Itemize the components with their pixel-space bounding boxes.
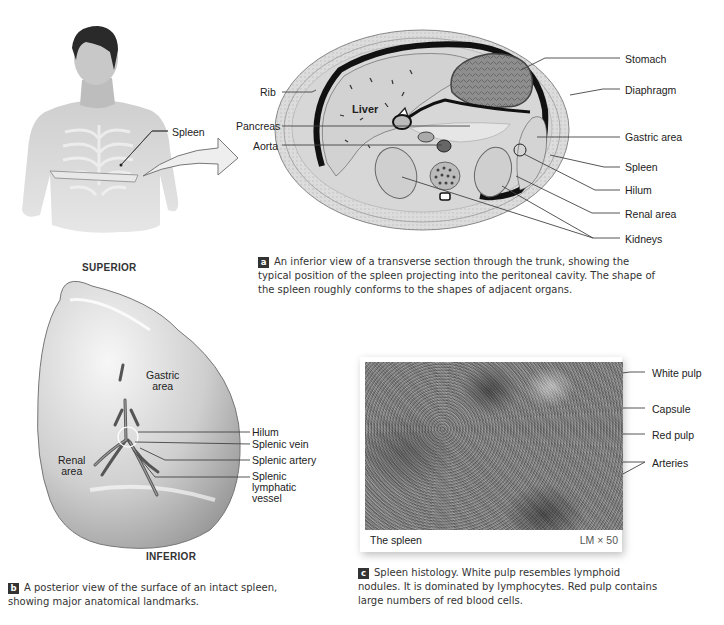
panel-key-b: b [8, 583, 19, 594]
label-renal-area-section: Renal area [625, 208, 676, 220]
label-aorta: Aorta [253, 140, 278, 152]
label-arteries: Arteries [652, 457, 688, 469]
label-gastric-area-b: Gastric area [146, 370, 179, 392]
micrograph-title: The spleen [370, 534, 422, 546]
micrograph-frame: The spleen LM × 50 [360, 357, 622, 552]
label-pancreas: Pancreas [236, 120, 280, 132]
label-splenic-vein: Splenic vein [252, 438, 309, 450]
panel-key-a: a [258, 257, 269, 268]
caption-c-text: Spleen histology. White pulp resembles l… [358, 567, 657, 606]
micrograph-magnification: LM × 50 [580, 534, 618, 546]
label-hilum-b: Hilum [252, 426, 279, 438]
label-kidneys: Kidneys [625, 233, 662, 245]
spleen-micrograph [365, 362, 623, 530]
label-gastric-area: Gastric area [625, 131, 682, 143]
panel-key-c: c [358, 568, 369, 579]
caption-b-text: A posterior view of the surface of an in… [8, 582, 277, 607]
label-hilum-section: Hilum [625, 184, 652, 196]
label-splenic-artery: Splenic artery [252, 454, 316, 466]
label-red-pulp: Red pulp [652, 429, 694, 441]
label-capsule: Capsule [652, 403, 691, 415]
orientation-superior: SUPERIOR [82, 262, 137, 273]
label-spleen-photo: Spleen [172, 126, 205, 138]
label-splenic-lymphatic-vessel: Splenic lymphatic vessel [252, 471, 296, 504]
label-white-pulp: White pulp [652, 367, 702, 379]
label-stomach: Stomach [625, 53, 666, 65]
transverse-section-illustration [275, 30, 569, 230]
orientation-inferior: INFERIOR [146, 551, 196, 562]
spleen-posterior-illustration [38, 281, 241, 548]
label-diaphragm: Diaphragm [625, 84, 676, 96]
label-renal-area-b: Renal area [58, 455, 85, 477]
label-liver: Liver [352, 103, 378, 115]
caption-panel-a: aAn inferior view of a transverse sectio… [258, 255, 658, 297]
label-rib: Rib [260, 86, 276, 98]
caption-a-text: An inferior view of a transverse section… [258, 256, 655, 295]
label-spleen-section: Spleen [625, 161, 658, 173]
caption-panel-b: bA posterior view of the surface of an i… [8, 581, 318, 609]
caption-panel-c: cSpleen histology. White pulp resembles … [358, 566, 658, 608]
